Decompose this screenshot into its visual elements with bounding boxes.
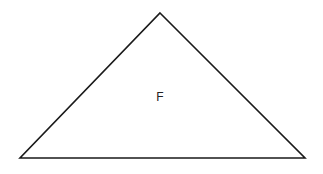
triangle-diagram: F: [0, 0, 323, 174]
triangle-shape: [20, 13, 305, 158]
triangle-label-f: F: [156, 90, 163, 104]
